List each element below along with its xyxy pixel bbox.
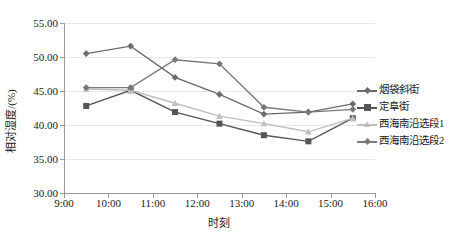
x-axis-line xyxy=(64,193,376,194)
y-tick-label: 45.00 xyxy=(33,85,58,97)
x-axis-title: 时刻 xyxy=(208,214,230,230)
y-tick-label: 55.00 xyxy=(33,17,58,29)
x-tick-label: 13:00 xyxy=(229,197,254,209)
legend-marker-triangle-icon xyxy=(357,120,377,130)
y-axis-tick xyxy=(60,57,64,58)
y-axis-tick xyxy=(60,23,64,24)
legend-item-label: 定阜街 xyxy=(377,102,409,113)
chart-legend: 烟袋斜街 定阜街 西海南沿选段1 西海南沿选段2 xyxy=(357,82,475,150)
x-tick-label: 12:00 xyxy=(185,197,210,209)
x-tick-label: 16:00 xyxy=(362,197,387,209)
y-tick-label: 35.00 xyxy=(33,153,58,165)
y-tick-label: 50.00 xyxy=(33,51,58,63)
y-axis-tick xyxy=(60,91,64,92)
x-tick-label: 14:00 xyxy=(274,197,299,209)
legend-item[interactable]: 西海南沿选段1 xyxy=(357,116,475,133)
y-axis-line xyxy=(64,23,65,194)
legend-item-label: 西海南沿选段1 xyxy=(377,119,444,130)
y-axis-title-wrap: 相对湿度/(%) xyxy=(12,0,13,242)
legend-item-label: 烟袋斜街 xyxy=(377,85,419,96)
y-axis-tick xyxy=(60,125,64,126)
legend-item-label: 西海南沿选段2 xyxy=(377,136,444,147)
chart-figure: 55.00 50.00 45.00 40.00 35.00 30.00 相对湿度… xyxy=(0,0,476,242)
legend-marker-diamond-icon xyxy=(357,137,377,147)
x-tick-label: 9:00 xyxy=(54,197,74,209)
legend-item[interactable]: 西海南沿选段2 xyxy=(357,133,475,150)
x-tick-label: 11:00 xyxy=(141,197,166,209)
x-tick-label: 15:00 xyxy=(318,197,343,209)
legend-item[interactable]: 定阜街 xyxy=(357,99,475,116)
y-axis-title: 相对湿度/(%) xyxy=(2,89,18,153)
y-axis-tick xyxy=(60,159,64,160)
y-tick-label: 40.00 xyxy=(33,119,58,131)
series-layer xyxy=(64,23,375,193)
legend-marker-diamond-icon xyxy=(357,86,377,96)
legend-marker-square-icon xyxy=(357,103,377,113)
x-tick-label: 10:00 xyxy=(96,197,121,209)
legend-item[interactable]: 烟袋斜街 xyxy=(357,82,475,99)
plot-area xyxy=(64,23,375,193)
